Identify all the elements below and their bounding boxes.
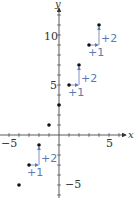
run-label-3: +1 [88, 46, 104, 59]
x-tick-label-5: 5 [106, 137, 113, 150]
y-tick-label-10: 10 [44, 30, 58, 43]
point [57, 103, 61, 107]
x-axis-label: x [128, 129, 134, 140]
slope-annotation-1 [30, 147, 39, 165]
point [97, 23, 101, 27]
rise-label-1: +2 [41, 152, 57, 165]
rise-label-3: +2 [101, 32, 117, 45]
rise-label-2: +2 [81, 72, 97, 85]
y-tick-label-neg5: −5 [65, 178, 81, 191]
slope-annotation-3 [90, 27, 99, 45]
y-axis-label: y [54, 0, 61, 9]
coordinate-plot: x y −5 5 10 5 −5 +1 +2 +1 +2 +1 +2 [0, 0, 138, 203]
run-label-2: +1 [68, 86, 84, 99]
point [27, 163, 31, 167]
point [47, 123, 51, 127]
point [37, 143, 41, 147]
x-tick-label-neg5: −5 [1, 137, 17, 150]
point [67, 83, 71, 87]
run-label-1: +1 [27, 166, 43, 179]
y-tick-label-5: 5 [50, 79, 57, 92]
point [87, 43, 91, 47]
point [17, 183, 21, 187]
point [77, 63, 81, 67]
slope-annotation-2 [70, 67, 79, 85]
